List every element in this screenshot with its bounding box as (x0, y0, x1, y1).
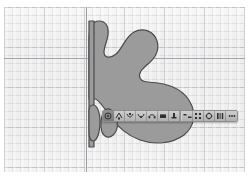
target-anchor-icon-button[interactable] (103, 111, 114, 121)
arrange-icon-button[interactable] (215, 111, 226, 121)
more-options-icon-button[interactable] (226, 111, 237, 121)
more-options-icon (228, 112, 236, 120)
drawing-canvas[interactable] (4, 7, 245, 172)
isolate-object-icon-button[interactable] (169, 111, 180, 121)
isolate-object-icon (170, 112, 178, 120)
convert-point-icon-button[interactable] (114, 111, 125, 121)
arrange-icon (216, 112, 224, 120)
floating-context-toolbar[interactable] (102, 110, 238, 122)
drawing-application (0, 0, 251, 182)
join-path-icon-button[interactable] (136, 111, 147, 121)
transform-icon (205, 112, 213, 120)
distribute-icon (194, 112, 202, 120)
cut-path-icon (126, 112, 134, 120)
blob-shape-group[interactable] (89, 21, 194, 147)
artwork-layer (4, 7, 245, 172)
align-horizontal-icon (183, 112, 192, 120)
corner-point-icon (159, 112, 167, 120)
convert-point-icon (115, 112, 123, 120)
smooth-point-icon-button[interactable] (147, 111, 158, 121)
align-horizontal-icon-button[interactable] (182, 111, 193, 121)
distribute-icon-button[interactable] (193, 111, 204, 121)
smooth-point-icon (148, 112, 156, 120)
lower-lobe-left-shape[interactable] (89, 105, 100, 141)
corner-point-icon-button[interactable] (158, 111, 169, 121)
cut-path-icon-button[interactable] (125, 111, 136, 121)
target-anchor-icon (104, 112, 112, 120)
join-path-icon (137, 112, 145, 120)
transform-icon-button[interactable] (204, 111, 215, 121)
